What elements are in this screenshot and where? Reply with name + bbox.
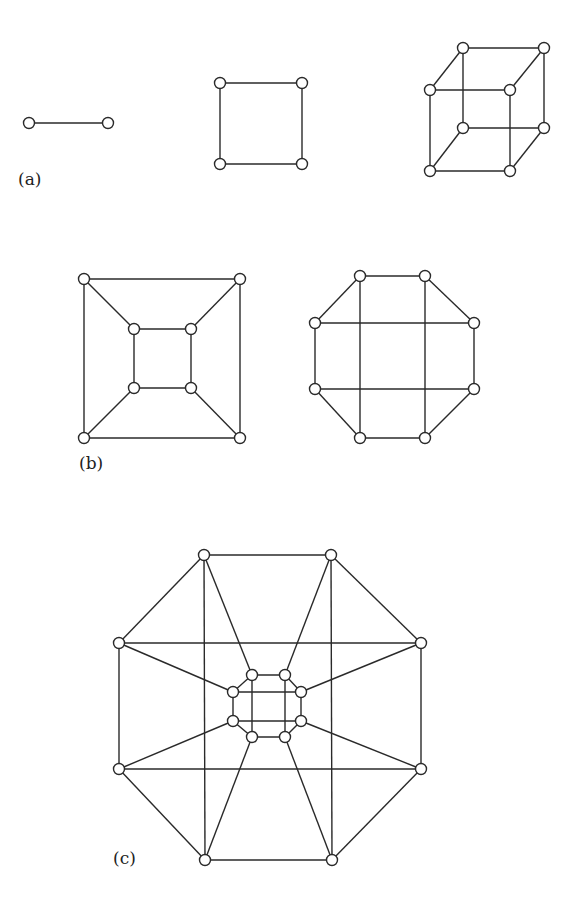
vertex — [215, 78, 226, 89]
vertex — [296, 687, 307, 698]
edge — [204, 555, 252, 675]
vertex — [200, 855, 211, 866]
edge — [191, 388, 240, 438]
vertex — [425, 85, 436, 96]
vertex — [326, 550, 337, 561]
vertex — [129, 324, 140, 335]
edge — [119, 769, 205, 860]
vertex — [79, 274, 90, 285]
edge — [332, 769, 421, 860]
graph-q3 — [425, 43, 550, 177]
vertex — [310, 318, 321, 329]
vertex — [24, 118, 35, 129]
vertex — [297, 78, 308, 89]
edge — [331, 555, 421, 643]
vertex — [420, 433, 431, 444]
vertex — [199, 550, 210, 561]
vertex — [235, 433, 246, 444]
panel-label-a: (a) — [18, 169, 41, 189]
graph-q3-octagon — [310, 271, 480, 444]
edge — [191, 279, 240, 329]
vertex — [425, 166, 436, 177]
vertex — [114, 764, 125, 775]
vertex — [103, 118, 114, 129]
edge — [315, 276, 360, 323]
edge — [119, 643, 233, 692]
graph-q4 — [114, 550, 427, 866]
edge — [430, 128, 463, 171]
edge — [425, 276, 474, 323]
hypercube-figure: (a) (b) (c) — [0, 0, 578, 902]
vertex — [469, 384, 480, 395]
graph-q2 — [215, 78, 308, 170]
vertex — [469, 318, 480, 329]
vertex — [247, 732, 258, 743]
edge — [119, 555, 204, 643]
vertex — [114, 638, 125, 649]
vertex — [539, 43, 550, 54]
edge — [84, 388, 134, 438]
vertex — [416, 764, 427, 775]
vertex — [296, 716, 307, 727]
vertex — [280, 670, 291, 681]
edge — [119, 721, 233, 769]
edge — [204, 555, 205, 860]
vertex — [420, 271, 431, 282]
edge — [301, 721, 421, 769]
vertex — [505, 166, 516, 177]
panel-label-b: (b) — [79, 453, 103, 473]
panel-b — [79, 271, 480, 444]
vertex — [186, 324, 197, 335]
edge — [510, 128, 544, 171]
panel-a — [24, 43, 550, 177]
vertex — [186, 383, 197, 394]
edge — [301, 643, 421, 692]
vertex — [280, 732, 291, 743]
vertex — [327, 855, 338, 866]
vertex — [458, 123, 469, 134]
vertex — [297, 159, 308, 170]
edge — [285, 555, 331, 675]
vertex — [235, 274, 246, 285]
edge — [430, 48, 463, 90]
edge — [315, 389, 360, 438]
vertex — [79, 433, 90, 444]
edge — [425, 389, 474, 438]
vertex — [247, 670, 258, 681]
panel-c — [114, 550, 427, 866]
edge — [510, 48, 544, 90]
vertex — [539, 123, 550, 134]
vertex — [215, 159, 226, 170]
edge — [84, 279, 134, 329]
vertex — [228, 716, 239, 727]
edge — [205, 737, 252, 860]
graph-q3-planar — [79, 274, 246, 444]
vertex — [310, 384, 321, 395]
vertex — [416, 638, 427, 649]
vertex — [129, 383, 140, 394]
graph-q1 — [24, 118, 114, 129]
edge — [331, 555, 332, 860]
panel-label-c: (c) — [113, 848, 136, 868]
vertex — [355, 433, 366, 444]
vertex — [505, 85, 516, 96]
vertex — [355, 271, 366, 282]
edge — [285, 737, 332, 860]
vertex — [458, 43, 469, 54]
vertex — [228, 687, 239, 698]
